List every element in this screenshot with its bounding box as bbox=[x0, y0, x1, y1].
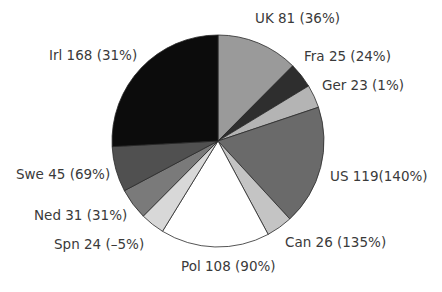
label-us: US 119(140%) bbox=[330, 168, 428, 184]
label-can: Can 26 (135%) bbox=[285, 234, 386, 250]
label-spn: Spn 24 (–5%) bbox=[54, 236, 144, 252]
label-fra: Fra 25 (24%) bbox=[304, 48, 391, 64]
label-uk: UK 81 (36%) bbox=[255, 10, 340, 26]
label-ger: Ger 23 (1%) bbox=[322, 77, 404, 93]
label-swe: Swe 45 (69%) bbox=[16, 166, 110, 182]
label-irl: Irl 168 (31%) bbox=[49, 47, 137, 63]
label-pol: Pol 108 (90%) bbox=[181, 258, 276, 274]
label-ned: Ned 31 (31%) bbox=[34, 207, 127, 223]
